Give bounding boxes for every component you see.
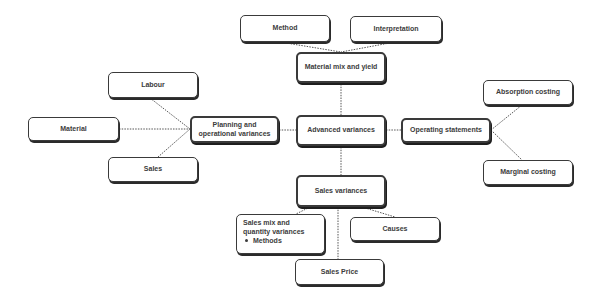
node-label: Material	[60, 125, 86, 134]
node-label: Absorption costing	[496, 88, 560, 97]
node-method: Method	[240, 15, 330, 42]
node-sales-price: Sales Price	[295, 259, 384, 285]
node-label-line1: Sales mix and	[243, 219, 304, 228]
node-label-line1: Planning and	[199, 121, 271, 130]
bullet-item: Methods	[243, 237, 304, 246]
node-material-mix-and-yield: Material mix and yield	[296, 52, 386, 83]
node-label: Material mix and yield	[305, 63, 378, 72]
node-label-line2: quantity variances	[243, 228, 304, 237]
node-label: Sales	[144, 165, 162, 174]
bullet-icon	[245, 239, 248, 242]
connector-absorption	[491, 105, 522, 130]
node-interpretation: Interpretation	[350, 16, 442, 42]
connector-method	[280, 42, 341, 52]
node-planning-and-operational-variances: Planning and operational variances	[190, 116, 279, 143]
node-label: Marginal costing	[500, 168, 556, 177]
node-label: Operating statements	[410, 126, 482, 135]
node-sales-variances: Sales variances	[296, 175, 386, 207]
node-label: Sales Price	[321, 268, 358, 277]
advanced-variances-mind-map: Method Interpretation Material mix and y…	[0, 0, 601, 298]
connector-marginal	[491, 130, 522, 160]
node-sales-mix-and-quantity-variances: Sales mix and quantity variances Methods	[236, 214, 325, 254]
node-sales: Sales	[108, 157, 198, 182]
connector-labour	[150, 98, 190, 129]
connector-causes	[362, 207, 395, 217]
node-absorption-costing: Absorption costing	[483, 80, 573, 105]
node-causes: Causes	[350, 217, 440, 241]
bullet-label: Methods	[253, 237, 282, 246]
connector-interpretation	[341, 42, 395, 52]
node-label: Method	[273, 24, 298, 33]
node-label: Advanced variances	[307, 126, 375, 135]
node-label: Interpretation	[373, 25, 418, 34]
connector-sales-mix	[296, 207, 310, 214]
node-label: Labour	[141, 81, 165, 90]
node-label: Sales variances	[315, 187, 368, 196]
node-advanced-variances: Advanced variances	[296, 115, 386, 146]
node-label: Causes	[383, 225, 408, 234]
connector-sales	[158, 129, 190, 157]
node-label-line2: operational variances	[199, 130, 271, 139]
node-labour: Labour	[108, 72, 198, 98]
node-material: Material	[28, 117, 119, 141]
node-operating-statements: Operating statements	[401, 118, 491, 143]
node-marginal-costing: Marginal costing	[483, 160, 573, 185]
